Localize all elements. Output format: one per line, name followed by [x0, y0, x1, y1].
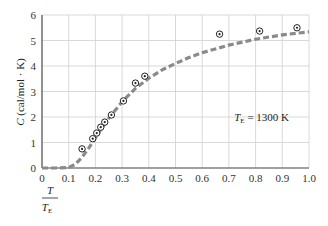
data-point-marker	[256, 28, 262, 34]
x-tick-label: 0.1	[62, 172, 76, 184]
x-tick-label: 0.2	[89, 172, 103, 184]
einstein-temperature-annotation: TE = 1300 K	[234, 111, 289, 125]
y-tick-label: 6	[31, 9, 37, 21]
y-tick-label: 4	[31, 60, 37, 72]
x-tick-label: 0.5	[169, 172, 183, 184]
x-axis-label-numerator: T	[47, 184, 54, 196]
y-axis-ticks: 0123456	[31, 9, 37, 174]
data-point-marker	[294, 25, 300, 31]
y-tick-label: 3	[31, 86, 37, 98]
data-point-marker	[108, 112, 114, 118]
y-tick-label: 1	[31, 137, 37, 149]
x-tick-label: 0.7	[222, 172, 236, 184]
data-point-marker	[216, 31, 222, 37]
x-axis-label: T TE	[42, 184, 58, 215]
y-axis-label: C (cal/mol · K)	[14, 58, 27, 126]
data-point-marker	[120, 98, 126, 104]
x-tick-label: 0.3	[115, 172, 129, 184]
data-point-marker	[94, 130, 100, 136]
y-tick-label: 0	[31, 162, 37, 174]
y-tick-label: 2	[31, 111, 37, 123]
data-point-marker	[90, 135, 96, 141]
x-tick-label: 0.4	[142, 172, 156, 184]
x-tick-label: 0	[39, 172, 45, 184]
data-point-marker	[79, 146, 85, 152]
x-tick-label: 0.8	[249, 172, 263, 184]
x-axis-label-denominator: TE	[42, 201, 52, 215]
x-axis-ticks: 00.10.20.30.40.50.60.70.80.91.0	[39, 172, 316, 184]
data-point-marker	[102, 119, 108, 125]
data-point-marker	[132, 80, 138, 86]
y-tick-label: 5	[31, 35, 37, 47]
x-tick-label: 1.0	[302, 172, 316, 184]
x-tick-label: 0.9	[275, 172, 289, 184]
x-tick-label: 0.6	[195, 172, 209, 184]
data-point-marker	[142, 73, 148, 79]
y-axis-label-units: (cal/mol · K)	[14, 58, 27, 119]
heat-capacity-chart: 00.10.20.30.40.50.60.70.80.91.0 0123456 …	[0, 0, 328, 226]
